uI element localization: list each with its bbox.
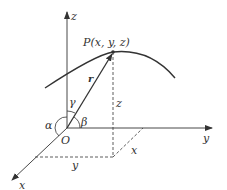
- x-projection-line: [113, 128, 143, 157]
- x-projection-label: x: [131, 144, 138, 157]
- z-projection-label: z: [115, 97, 122, 110]
- z-axis-label: z: [70, 10, 77, 23]
- gamma-label: γ: [69, 96, 76, 109]
- x-axis-label: x: [19, 179, 26, 190]
- y-axis-label: y: [202, 132, 210, 145]
- position-vector-r: [67, 54, 112, 128]
- space-curve-diagram: z y x P(x, y, z) r O γ β α z x y: [0, 0, 227, 190]
- point-p-label: P(x, y, z): [82, 36, 130, 49]
- beta-label: β: [80, 116, 87, 129]
- vector-r-label: r: [88, 73, 94, 84]
- beta-arc: [74, 117, 80, 128]
- alpha-label: α: [45, 119, 53, 132]
- y-projection-label: y: [71, 159, 79, 172]
- origin-label: O: [61, 134, 70, 147]
- gamma-arc: [67, 111, 75, 113]
